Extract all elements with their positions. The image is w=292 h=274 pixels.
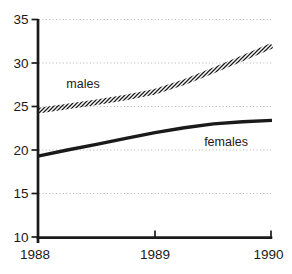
x-tick-label-1990: 1990 bbox=[253, 247, 283, 262]
y-tick-label-35: 35 bbox=[13, 12, 28, 27]
y-tick-label-15: 15 bbox=[13, 186, 28, 201]
chart-container: 101520253035198819891990malesfemales bbox=[0, 0, 292, 274]
y-tick-label-20: 20 bbox=[13, 143, 28, 158]
y-tick-label-30: 30 bbox=[13, 56, 28, 71]
line-chart: 101520253035198819891990malesfemales bbox=[0, 0, 292, 274]
series-females-label: females bbox=[204, 135, 248, 149]
series-males-label: males bbox=[66, 77, 99, 91]
x-tick-label-1988: 1988 bbox=[20, 247, 50, 262]
x-tick-label-1989: 1989 bbox=[140, 247, 170, 262]
y-tick-label-10: 10 bbox=[13, 230, 28, 245]
y-tick-label-25: 25 bbox=[13, 99, 28, 114]
